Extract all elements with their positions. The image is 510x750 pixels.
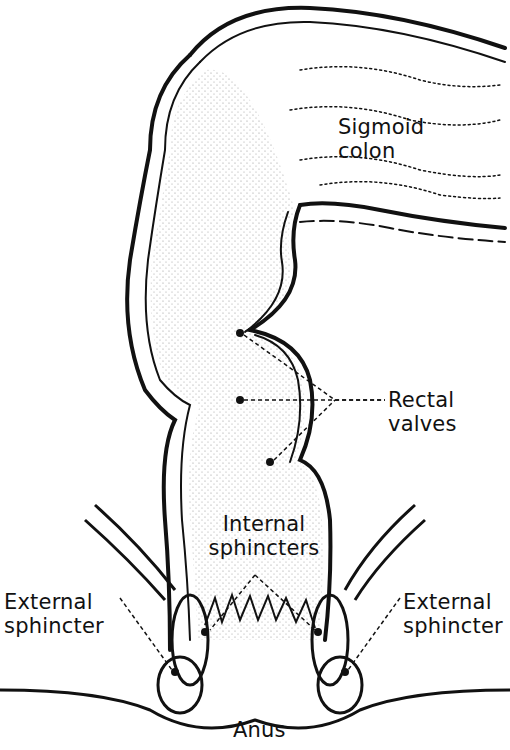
label-external-sphincter-left-line2: sphincter [4, 614, 104, 638]
label-external-sphincter-left-line1: External [4, 590, 104, 614]
label-internal-sphincters: Internal sphincters [205, 512, 323, 560]
label-sigmoid-colon-line2: colon [338, 139, 424, 163]
label-external-sphincter-right-line2: sphincter [403, 614, 503, 638]
label-sigmoid-colon-line1: Sigmoid [338, 115, 424, 139]
label-rectal-valves-line1: Rectal [388, 388, 457, 412]
label-sigmoid-colon: Sigmoid colon [338, 115, 424, 163]
label-external-sphincter-left: External sphincter [4, 590, 104, 638]
label-internal-sphincters-line2: sphincters [205, 536, 323, 560]
label-rectal-valves: Rectal valves [388, 388, 457, 436]
label-anus: Anus [233, 718, 286, 742]
label-external-sphincter-right-line1: External [403, 590, 503, 614]
label-external-sphincter-right: External sphincter [403, 590, 503, 638]
label-internal-sphincters-line1: Internal [205, 512, 323, 536]
label-rectal-valves-line2: valves [388, 412, 457, 436]
